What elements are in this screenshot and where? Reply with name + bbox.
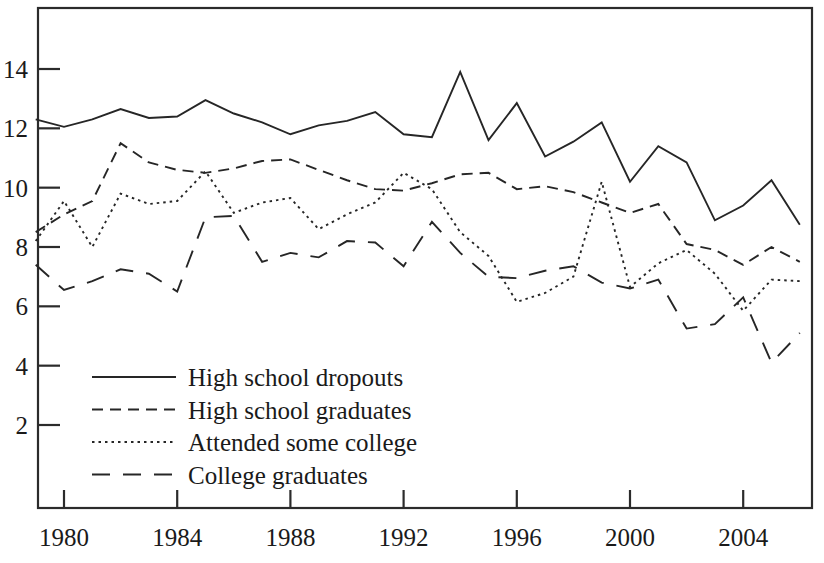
- x-tick-label: 1984: [152, 524, 203, 551]
- x-tick-label: 1992: [379, 524, 429, 551]
- y-tick-label: 12: [3, 115, 28, 142]
- y-tick-label: 10: [3, 175, 28, 202]
- chart-figure: 2468101214 1980198419881992199620002004 …: [0, 0, 824, 563]
- legend-label: College graduates: [188, 462, 368, 489]
- line-chart: 2468101214 1980198419881992199620002004 …: [0, 0, 824, 563]
- legend-label: High school graduates: [188, 397, 412, 424]
- y-axis-tick-labels: 2468101214: [3, 56, 29, 439]
- plot-frame: [38, 8, 812, 508]
- legend-label: High school dropouts: [188, 364, 403, 391]
- x-tick-label: 1988: [265, 524, 315, 551]
- y-tick-label: 8: [16, 234, 29, 261]
- x-tick-label: 1980: [39, 524, 89, 551]
- data-series-group: [36, 72, 800, 363]
- x-axis-ticks: [64, 490, 743, 508]
- x-axis-tick-labels: 1980198419881992199620002004: [39, 524, 769, 551]
- y-tick-label: 4: [16, 353, 29, 380]
- y-tick-label: 14: [3, 56, 29, 83]
- legend-label: Attended some college: [188, 429, 417, 456]
- x-tick-label: 2004: [718, 524, 769, 551]
- x-tick-label: 1996: [492, 524, 542, 551]
- x-tick-label: 2000: [605, 524, 655, 551]
- series-line-high-school-dropouts: [36, 72, 800, 225]
- y-tick-label: 6: [16, 293, 29, 320]
- chart-legend: High school dropoutsHigh school graduate…: [92, 364, 417, 489]
- y-tick-label: 2: [16, 412, 29, 439]
- series-line-college-graduates: [36, 216, 800, 363]
